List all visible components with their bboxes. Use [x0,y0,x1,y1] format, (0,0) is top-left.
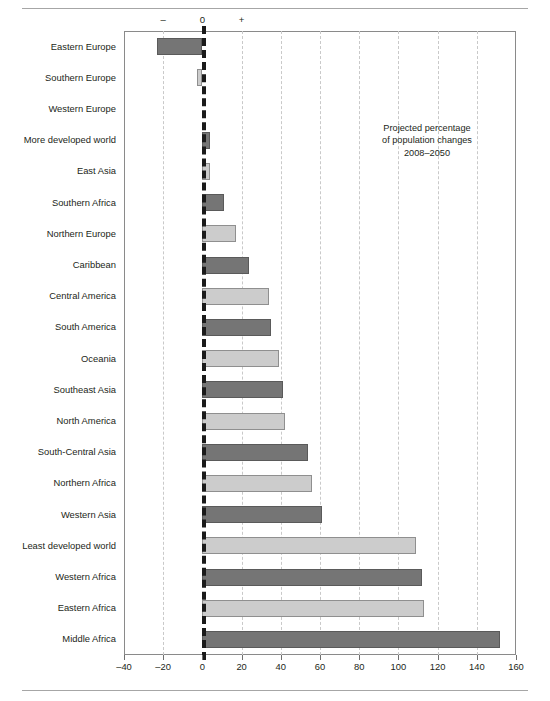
category-label-northern-africa: Northern Africa [0,477,116,488]
top-rule [22,8,528,9]
bar-southeast-asia [202,381,282,398]
xtick-160 [516,655,517,660]
xtick-label-120: 120 [418,661,458,672]
category-label-more-developed-world: More developed world [0,134,116,145]
bar-western-asia [202,506,322,523]
xtick-100 [398,655,399,660]
xtick-120 [438,655,439,660]
xtick-label-40: 40 [261,661,301,672]
chart-annotation: Projected percentage of population chang… [352,122,502,159]
category-label-central-america: Central America [0,290,116,301]
xtick-60 [320,655,321,660]
bar-western-africa [202,569,422,586]
bar-south-central-asia [202,444,308,461]
negative-sign-mark: – [153,14,173,25]
category-label-south-central-asia: South-Central Asia [0,446,116,457]
xtick-label-0: 0 [182,661,222,672]
xtick-40 [281,655,282,660]
xtick-20 [242,655,243,660]
bar-northern-europe [202,225,235,242]
bar-central-america [202,288,269,305]
category-label-north-america: North America [0,415,116,426]
xtick-label-80: 80 [339,661,379,672]
category-label-oceania: Oceania [0,353,116,364]
xtick-label-20: 20 [222,661,262,672]
annotation-line-1: Projected percentage [352,122,502,134]
category-label-eastern-europe: Eastern Europe [0,41,116,52]
category-label-southeast-asia: Southeast Asia [0,384,116,395]
category-label-southern-europe: Southern Europe [0,72,116,83]
bar-northern-africa [202,475,312,492]
xtick-label-100: 100 [378,661,418,672]
category-label-southern-africa: Southern Africa [0,197,116,208]
xtick-label-140: 140 [457,661,497,672]
xtick-140 [477,655,478,660]
positive-sign-mark: + [232,14,252,25]
bottom-rule [22,690,528,691]
xtick-label--40: –40 [104,661,144,672]
bar-oceania [202,350,278,367]
xtick--40 [124,655,125,660]
gridline-40 [281,31,282,655]
annotation-line-2: of population changes [352,134,502,146]
category-label-western-asia: Western Asia [0,509,116,520]
category-label-middle-africa: Middle Africa [0,633,116,644]
category-label-western-europe: Western Europe [0,103,116,114]
gridline-20 [242,31,243,655]
category-label-caribbean: Caribbean [0,259,116,270]
category-label-south-america: South America [0,321,116,332]
bar-south-america [202,319,271,336]
xtick-80 [359,655,360,660]
category-label-least-developed-world: Least developed world [0,540,116,551]
bar-caribbean [202,257,249,274]
xtick-label--20: –20 [143,661,183,672]
bar-north-america [202,413,284,430]
gridline-60 [320,31,321,655]
gridline--20 [163,31,164,655]
annotation-line-3: 2008–2050 [352,147,502,159]
category-label-western-africa: Western Africa [0,571,116,582]
bar-least-developed-world [202,537,416,554]
xtick-label-60: 60 [300,661,340,672]
category-label-northern-europe: Northern Europe [0,228,116,239]
xtick--20 [163,655,164,660]
bar-middle-africa [202,631,500,648]
xtick-0 [202,655,203,660]
zero-sign-mark: 0 [192,14,212,25]
figure-container: – 0 + Eastern EuropeSouthern EuropeWeste… [0,0,550,701]
zero-line [202,26,206,660]
xtick-label-160: 160 [496,661,536,672]
category-label-eastern-africa: Eastern Africa [0,602,116,613]
bar-eastern-africa [202,600,423,617]
category-label-east-asia: East Asia [0,165,116,176]
bar-eastern-europe [157,38,202,55]
